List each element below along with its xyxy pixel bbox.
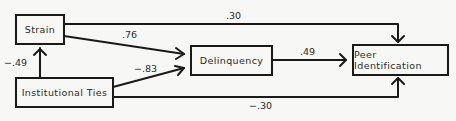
coef-ties-delinquency: −.83 [134, 63, 157, 74]
node-institutional-ties: Institutional Ties [15, 77, 114, 108]
coef-strain-delinquency: .76 [122, 29, 137, 40]
node-label: Strain [25, 24, 56, 35]
coef-ties-strain: −.49 [4, 57, 27, 68]
edge-ties-peer [113, 78, 398, 97]
coef-ties-peer: −.30 [249, 100, 272, 111]
edge-strain-peer [64, 24, 398, 42]
node-label: Peer Identification [354, 49, 447, 71]
node-label: Delinquency [200, 55, 264, 66]
node-peer-identification: Peer Identification [352, 44, 449, 76]
coef-delinquency-peer: .49 [300, 46, 315, 57]
node-label: Institutional Ties [22, 87, 108, 98]
coef-strain-peer: .30 [226, 10, 241, 21]
node-strain: Strain [15, 14, 65, 45]
node-delinquency: Delinquency [190, 45, 273, 76]
